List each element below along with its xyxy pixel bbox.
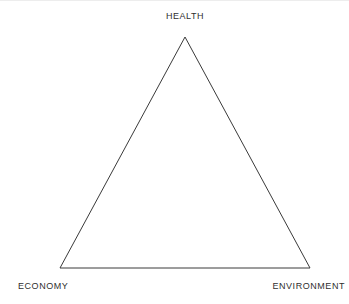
vertex-label-economy: ECONOMY (18, 281, 68, 292)
triangle-shape (0, 0, 349, 304)
diagram-canvas: HEALTH ECONOMY ENVIRONMENT (0, 0, 349, 304)
triangle-outline (60, 37, 310, 268)
vertex-label-health: HEALTH (166, 11, 204, 22)
vertex-label-environment: ENVIRONMENT (272, 281, 345, 292)
